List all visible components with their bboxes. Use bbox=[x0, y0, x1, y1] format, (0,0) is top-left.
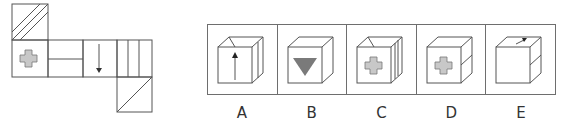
cross-icon bbox=[365, 57, 382, 74]
option-a[interactable] bbox=[208, 25, 278, 94]
cube-net bbox=[0, 0, 200, 129]
option-d[interactable] bbox=[417, 25, 487, 94]
cross-icon bbox=[20, 50, 37, 67]
arrow-icon bbox=[522, 38, 527, 42]
option-labels: A B C D E bbox=[207, 104, 556, 122]
label-c: C bbox=[347, 104, 417, 122]
label-d: D bbox=[416, 104, 486, 122]
option-c[interactable] bbox=[347, 25, 417, 94]
triangle-icon bbox=[293, 58, 317, 76]
cross-icon bbox=[435, 57, 452, 74]
options-box bbox=[207, 24, 556, 95]
label-b: B bbox=[277, 104, 347, 122]
option-e[interactable] bbox=[486, 25, 555, 94]
arrow-up-icon bbox=[232, 52, 238, 58]
option-b[interactable] bbox=[278, 25, 348, 94]
label-e: E bbox=[486, 104, 556, 122]
label-a: A bbox=[207, 104, 277, 122]
arrow-down-icon bbox=[96, 68, 102, 73]
